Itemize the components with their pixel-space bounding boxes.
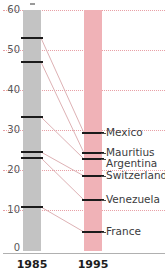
- y-tick-label-40: 40: [1, 85, 20, 95]
- y-tick-label-10: 10: [1, 205, 20, 215]
- marker-1985-venezuela: [21, 157, 43, 159]
- bar-top-cap-icon: [30, 3, 35, 5]
- connector-mauritius: [41, 62, 84, 153]
- x-axis-line: [3, 253, 165, 254]
- x-tick-label-1985: 1985: [10, 258, 54, 271]
- marker-1985-france: [21, 206, 43, 208]
- bar-1995: [84, 10, 102, 251]
- series-label-venezuela: Venezuela: [106, 194, 160, 205]
- series-label-switzerland: Switzerland: [106, 170, 165, 181]
- slope-chart: 60 50 40 30 20 10 0: [0, 0, 165, 278]
- y-tick-label-0: 0: [1, 243, 20, 253]
- series-label-france: France: [106, 226, 141, 237]
- series-label-mexico: Mexico: [106, 127, 143, 138]
- marker-1985-mauritius: [21, 61, 43, 63]
- y-tick-label-20: 20: [1, 165, 20, 175]
- x-tick-label-1995: 1995: [71, 258, 115, 271]
- connector-venezuela: [41, 158, 84, 200]
- y-tick-label-50: 50: [1, 45, 20, 55]
- connector-mexico: [41, 38, 84, 133]
- y-tick-label-60: 60: [1, 5, 20, 15]
- marker-1985-argentina: [21, 116, 43, 118]
- marker-1985-mexico: [21, 37, 43, 39]
- plot-area: 60 50 40 30 20 10 0: [0, 0, 165, 251]
- y-tick-label-30: 30: [1, 125, 20, 135]
- connector-switzerland: [41, 152, 84, 176]
- marker-1985-switzerland: [21, 151, 43, 153]
- bar-1985: [23, 10, 41, 251]
- series-label-argentina: Argentina: [106, 158, 157, 169]
- connector-argentina: [41, 117, 84, 159]
